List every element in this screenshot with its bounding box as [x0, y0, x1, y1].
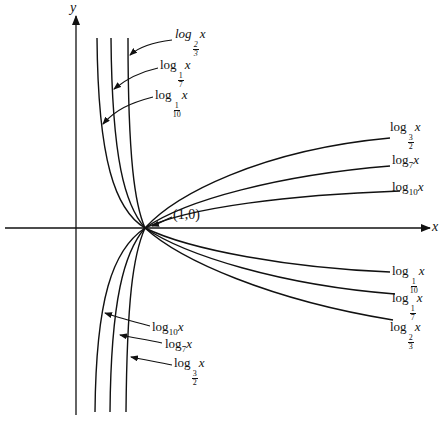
log-curves-diagram: [0, 0, 444, 426]
leader-bl-3-2: [131, 357, 172, 365]
x-axis-label: x: [432, 219, 438, 235]
curve-log-1-10-left: [97, 38, 145, 228]
label-log-2-3-right: log23x: [390, 320, 420, 351]
label-log-3-2-right: log32x: [390, 120, 420, 151]
curve-log-2-3-left: [128, 38, 145, 228]
label-log-7-left: log7x: [165, 337, 192, 350]
leader-top-1-7: [114, 68, 158, 89]
label-log-10-left: log10x: [152, 320, 183, 333]
y-axis-label: y: [70, 0, 76, 16]
leader-bl-7: [120, 335, 162, 343]
leader-top-1-10: [103, 97, 153, 124]
label-log-1-10-top: log110x: [155, 88, 187, 119]
label-log-1-7-top: log17x: [160, 58, 190, 89]
label-log-7-right: log7x: [392, 153, 419, 166]
label-log-3-2-left: log32x: [174, 356, 204, 387]
curve-log-1-10-right: [145, 228, 390, 272]
curve-log-10-left: [95, 228, 145, 412]
label-log-2-3-top: log23x: [175, 27, 205, 58]
point-label: (1,0): [173, 208, 200, 222]
leader-bl-10: [105, 313, 150, 326]
label-log-1-7-right: log17x: [392, 291, 422, 322]
leader-top-2-3: [130, 40, 172, 55]
label-log-10-right: log10x: [392, 180, 423, 193]
